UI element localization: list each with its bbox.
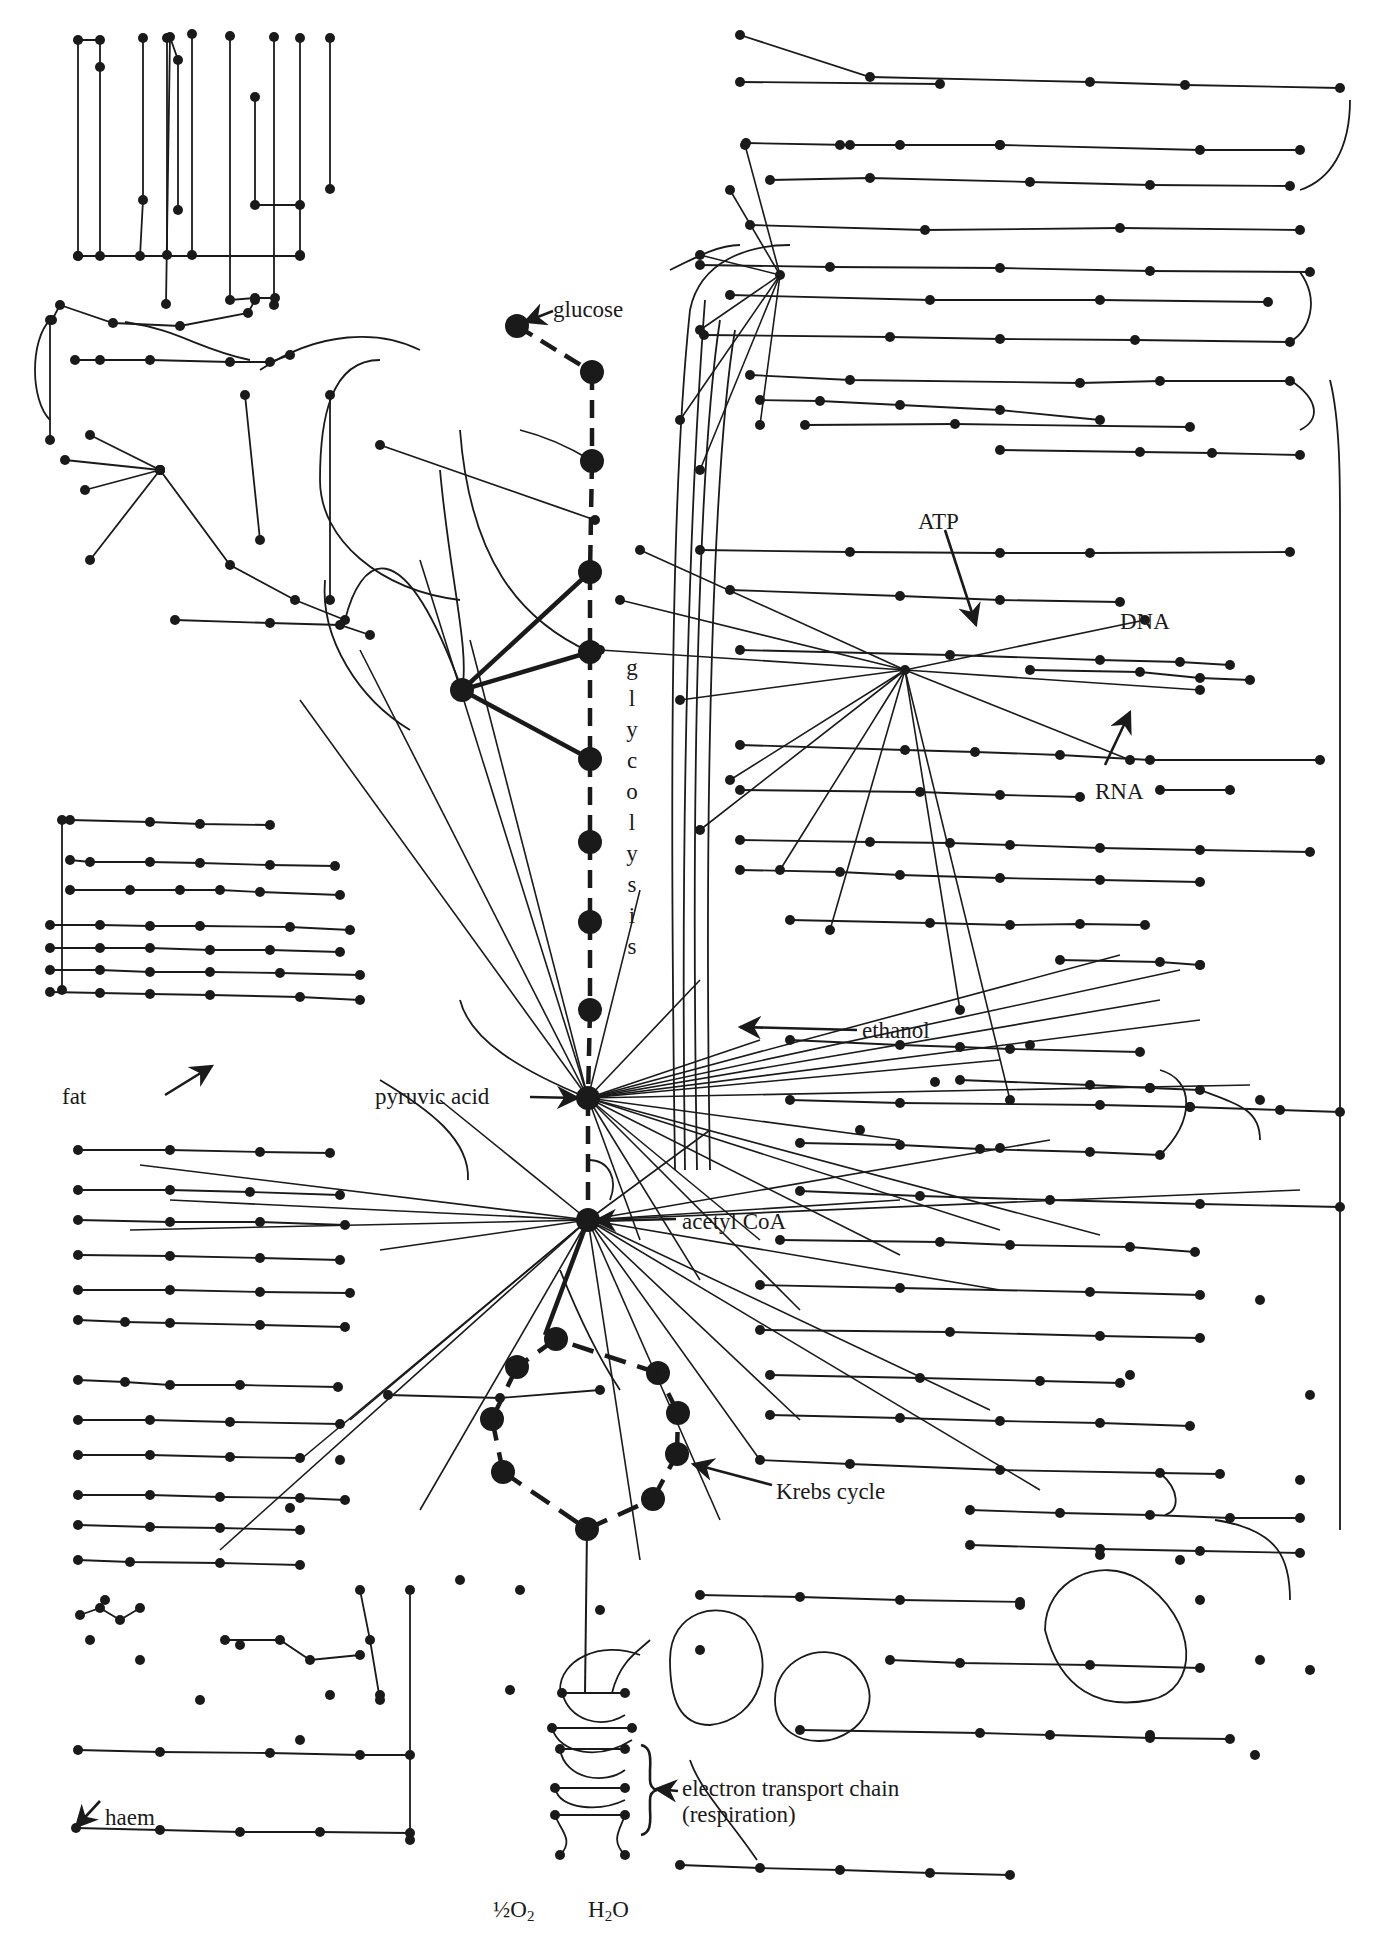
metabolite-node	[73, 1315, 83, 1325]
pathway-curve	[1160, 1070, 1186, 1155]
metabolite-node	[165, 1185, 175, 1195]
metabolite-node	[145, 1522, 155, 1532]
metabolite-node	[1195, 960, 1205, 970]
metabolite-node	[895, 140, 905, 150]
metabolite-node	[945, 1327, 955, 1337]
glycolysis-letter: g	[622, 652, 642, 683]
metabolite-node	[900, 745, 910, 755]
metabolite-node	[1255, 1095, 1265, 1105]
pathway-line	[640, 550, 905, 670]
metabolite-node	[995, 1465, 1005, 1475]
metabolite-node	[355, 995, 365, 1005]
pathway-curve	[617, 1815, 625, 1855]
metabolite-node	[1005, 1870, 1015, 1880]
label-arrow	[530, 1097, 578, 1098]
metabolite-node	[135, 251, 145, 261]
pathway-line	[85, 470, 160, 490]
metabolite-node	[95, 988, 105, 998]
metabolite-node	[1295, 1548, 1305, 1558]
metabolite-node	[73, 251, 83, 261]
metabolite-node	[145, 1450, 155, 1460]
metabolite-node	[100, 1595, 110, 1605]
pathway-line	[78, 1320, 345, 1327]
metabolite-node	[1305, 847, 1315, 857]
pathway-line	[730, 190, 780, 275]
metabolite-node	[325, 1148, 335, 1158]
metabolite-node	[595, 1605, 605, 1615]
metabolite-node	[1025, 665, 1035, 675]
pathway-line	[970, 1510, 1300, 1518]
metabolite-node	[725, 185, 735, 195]
metabolite-node	[95, 251, 105, 261]
pathway-curve	[555, 1788, 625, 1807]
metabolite-node	[955, 1658, 965, 1668]
glycolysis-step	[588, 1010, 590, 1098]
metabolite-node	[1155, 376, 1165, 386]
pathway-line	[360, 650, 588, 1098]
pathway-curve	[670, 1610, 763, 1725]
metabolite-node	[250, 295, 260, 305]
pathway-line	[388, 1390, 600, 1398]
label-oxygen: ½O2	[493, 1898, 534, 1924]
metabolite-node	[1045, 1195, 1055, 1205]
metabolite-node	[73, 1285, 83, 1295]
metabolite-node	[195, 1695, 205, 1705]
metabolite-node	[1055, 955, 1065, 965]
metabolite-node	[1295, 450, 1305, 460]
metabolite-node	[85, 857, 95, 867]
metabolite-node	[265, 618, 275, 628]
metabolite-node	[57, 985, 67, 995]
pathway-curve	[588, 1160, 613, 1200]
metabolite-node	[1095, 1331, 1105, 1341]
pathway-line	[1000, 450, 1300, 455]
metabolite-node	[995, 1143, 1005, 1153]
metabolite-node	[795, 1592, 805, 1602]
glycolysis-letter: y	[622, 714, 642, 745]
label-ethanol: ethanol	[862, 1019, 930, 1042]
glycolysis-letter: c	[622, 745, 642, 776]
label-acetyl-coa: acetyl CoA	[682, 1210, 786, 1233]
pathway-curve	[1160, 1473, 1176, 1515]
metabolite-node	[695, 260, 705, 270]
metabolite-node	[1145, 180, 1155, 190]
metabolite-node	[945, 650, 955, 660]
metabolite-node	[1145, 1083, 1155, 1093]
metabolite-node	[895, 1140, 905, 1150]
metabolite-node	[785, 1095, 795, 1105]
metabolite-node	[340, 1322, 350, 1332]
pathway-line	[740, 870, 1200, 882]
metabolite-node	[1095, 295, 1105, 305]
metabolite-node	[295, 250, 305, 260]
metabolite-node	[505, 1685, 515, 1695]
glycolysis-letter: i	[622, 900, 642, 931]
label-water: H2O	[588, 1898, 629, 1924]
metabolite-node	[765, 175, 775, 185]
metabolite-node	[895, 1098, 905, 1108]
metabolite-node	[1185, 1102, 1195, 1112]
metabolite-node	[755, 1863, 765, 1873]
pathway-line	[780, 670, 905, 870]
metabolite-node	[265, 1748, 275, 1758]
metabolite-node	[1285, 376, 1295, 386]
metabolite-node	[405, 1835, 415, 1845]
metabolite-node	[243, 308, 253, 318]
metabolite-node	[845, 547, 855, 557]
metabolite-node	[1005, 1044, 1015, 1054]
metabolite-node	[795, 1725, 805, 1735]
metabolite-node	[335, 1255, 345, 1265]
metabolite-node	[1130, 335, 1140, 345]
pathway-line	[830, 670, 905, 930]
pathway-line	[588, 1098, 1000, 1230]
pathway-line	[740, 745, 1320, 760]
metabolite-node	[215, 1558, 225, 1568]
metabolite-node	[95, 943, 105, 953]
pathway-line	[140, 1165, 588, 1220]
metabolite-node	[755, 1325, 765, 1335]
metabolite-node	[165, 1285, 175, 1295]
metabolite-node	[1225, 1513, 1235, 1523]
pathway-line	[78, 1290, 350, 1293]
pathway-curve	[325, 580, 410, 730]
pathway-line	[588, 955, 1120, 1098]
metabolite-node	[995, 595, 1005, 605]
pathway-line	[420, 560, 588, 1098]
